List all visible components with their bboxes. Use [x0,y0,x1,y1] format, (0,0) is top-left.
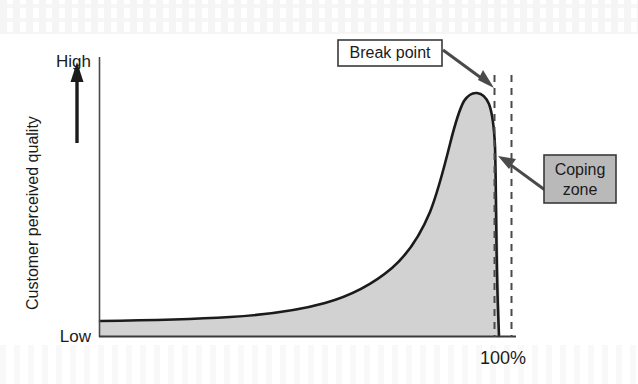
y-direction-arrow [71,62,84,143]
chart-figure: High Low 100% Customer perceived quality… [0,0,638,384]
x-axis-tick-100: 100% [480,348,526,368]
break-point-annotation: Break point [338,40,494,88]
quality-capacity-chart: High Low 100% Customer perceived quality… [0,0,638,384]
coping-zone-label-line1: Coping [555,161,606,178]
break-point-arrowhead [478,70,494,88]
y-axis-low-label: Low [60,327,92,346]
break-point-label: Break point [350,44,431,61]
coping-zone-annotation: Coping zone [498,155,616,203]
y-axis-high-label: High [56,52,91,71]
coping-zone-leader-line [508,163,545,190]
coping-zone-label-line2: zone [563,181,598,198]
area-fill [100,93,496,336]
y-axis-title: Customer perceived quality [24,116,41,310]
